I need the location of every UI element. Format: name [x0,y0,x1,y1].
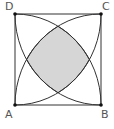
shaded-region [27,26,90,93]
vertex-b-dot [99,103,103,107]
vertex-label-a: A [5,109,13,120]
vertex-label-c: C [102,1,110,12]
vertex-a-dot [13,103,17,107]
vertex-label-d: D [5,1,13,12]
square-arcs-diagram [0,0,114,129]
vertex-d-dot [13,12,17,16]
geometry-figure: D C A B [0,0,114,129]
vertex-label-b: B [101,109,109,120]
